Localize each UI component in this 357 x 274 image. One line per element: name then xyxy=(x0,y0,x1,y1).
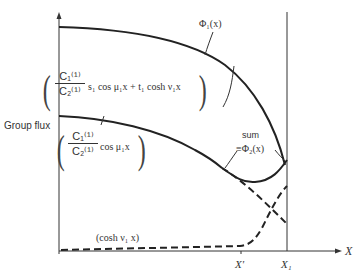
cosh-label: (cosh ν₁ x) xyxy=(96,232,139,243)
phi1-leader xyxy=(205,32,213,55)
x-prime-label: X' xyxy=(235,258,244,270)
x-axis-arrow-icon xyxy=(335,249,342,254)
cosh-component-curve xyxy=(61,186,287,250)
figure-group-flux: Φ₁(x) ( C₁⁽¹⁾ C₂⁽¹⁾ s₁ cos μ₁x + t₁ cosh… xyxy=(0,0,357,274)
y-axis-arrow-icon xyxy=(57,12,62,19)
x1-label: X₁ xyxy=(281,258,292,270)
fraction-upper-denominator: C₂⁽¹⁾ xyxy=(59,85,81,97)
fraction-lower-numerator: C₁⁽¹⁾ xyxy=(72,130,93,142)
phi1-label: Φ₁(x) xyxy=(199,18,221,29)
fraction-lower-denominator: C₂⁽¹⁾ xyxy=(72,145,94,157)
phi2-label: ≡Φ₂(x) xyxy=(236,143,264,154)
fraction-upper: C₁⁽¹⁾ C₂⁽¹⁾ xyxy=(55,70,85,97)
fraction-bar xyxy=(55,83,85,84)
fraction-lower: C₁⁽¹⁾ C₂⁽¹⁾ xyxy=(68,130,98,157)
x-axis-label: X xyxy=(345,244,352,259)
fraction-upper-numerator: C₁⁽¹⁾ xyxy=(59,70,80,82)
right-paren: ) xyxy=(199,66,207,113)
phi2-leader-right xyxy=(275,150,285,161)
sum-label: sum xyxy=(242,130,259,140)
left-paren-lower: ( xyxy=(57,126,65,173)
left-paren: ( xyxy=(43,66,51,113)
fraction-bar xyxy=(68,143,98,144)
plot-canvas xyxy=(0,0,357,274)
upper-expression-tail: s₁ cos μ₁x + t₁ cosh ν₁x xyxy=(88,81,181,92)
right-paren-lower: ) xyxy=(138,126,146,173)
cos-component-dashed xyxy=(222,168,287,224)
sum-curve xyxy=(222,160,287,182)
y-axis-label: Group flux xyxy=(4,120,50,131)
lower-expression-tail: cos μ₁x xyxy=(100,141,130,152)
